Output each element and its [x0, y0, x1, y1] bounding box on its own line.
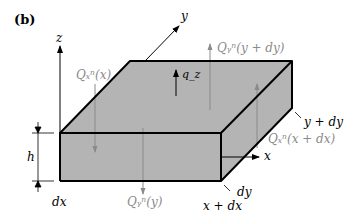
z-axis-label: z	[56, 32, 62, 44]
y-axis	[145, 26, 179, 61]
plate-element-diagram	[0, 0, 353, 222]
dx-label: dx	[52, 196, 66, 208]
dy-leader	[224, 185, 230, 191]
y-dy-label: y + dy	[304, 116, 343, 128]
qy-y-label: Qᵧⁿ(y)	[127, 196, 162, 208]
qz-label: q_z	[182, 69, 200, 80]
h-label: h	[27, 151, 35, 163]
dy-label: dy	[237, 186, 251, 198]
y-dy-leader	[295, 112, 301, 118]
qx-x-dx-label: Qₓⁿ(x + dx)	[268, 133, 335, 145]
y-axis-label: y	[181, 10, 188, 22]
x-axis-label: x	[264, 150, 271, 162]
x-dx-label: x + dx	[203, 200, 242, 212]
qy-y-dy-label: Qᵧⁿ(y + dy)	[217, 42, 285, 54]
qx-x-label: Qₓⁿ(x)	[76, 69, 111, 81]
block-front-face	[60, 133, 221, 181]
h-dimension	[32, 122, 54, 192]
panel-label: (b)	[14, 13, 35, 26]
